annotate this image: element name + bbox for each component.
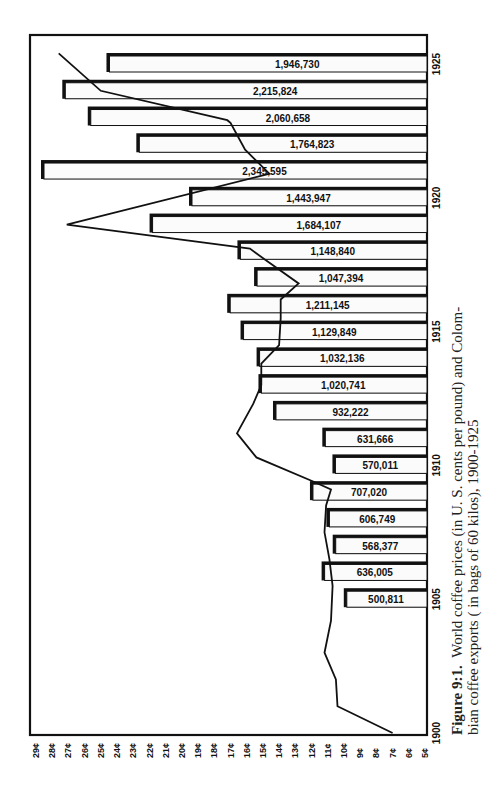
export-bar: 1,684,107 — [150, 214, 427, 233]
export-bar: 932,222 — [273, 401, 427, 420]
bar-value-label: 1,032,136 — [320, 353, 365, 364]
price-tick-label: 15¢ — [258, 743, 268, 758]
year-tick-label: 1900 — [431, 721, 442, 744]
caption-line-1: Figure 9:1. World coffee prices (in U. S… — [449, 307, 466, 735]
bar-value-label: 500,811 — [368, 594, 404, 605]
caption-figure-label: Figure 9:1. — [449, 665, 465, 735]
export-bar: 1,032,136 — [257, 347, 427, 366]
year-tick-label: 1910 — [431, 454, 442, 477]
bar-value-label: 1,443,947 — [286, 193, 331, 204]
bar-body — [44, 163, 427, 179]
figure-caption: Figure 9:1. World coffee prices (in U. S… — [449, 307, 482, 735]
caption-text-1: World coffee prices (in U. S. cents per … — [449, 307, 466, 658]
bar-value-label: 1,129,849 — [312, 327, 357, 338]
bar-value-label: 1,047,394 — [319, 273, 364, 284]
export-bar: 1,443,947 — [189, 187, 427, 206]
price-axis: 29¢28¢27¢26¢25¢24¢23¢22¢21¢20¢19¢18¢17¢1… — [31, 743, 430, 758]
export-bar: 2,060,658 — [88, 107, 427, 126]
export-bar: 500,811 — [344, 588, 427, 607]
price-tick-label: 20¢ — [177, 743, 187, 758]
bar-value-label: 1,684,107 — [297, 220, 342, 231]
price-tick-label: 14¢ — [274, 743, 284, 758]
export-bar: 631,666 — [322, 428, 427, 447]
export-bar: 1,211,145 — [227, 294, 427, 313]
price-tick-label: 19¢ — [193, 743, 203, 758]
export-bar: 636,005 — [322, 561, 427, 580]
price-tick-label: 8¢ — [371, 748, 381, 758]
export-bar: 707,020 — [310, 481, 427, 500]
bar-value-label: 631,666 — [357, 434, 394, 445]
price-tick-label: 22¢ — [145, 743, 155, 758]
price-tick-label: 21¢ — [161, 743, 171, 758]
price-tick-label: 10¢ — [339, 743, 349, 758]
price-tick-label: 26¢ — [80, 743, 90, 758]
export-bar: 2,215,824 — [62, 80, 427, 99]
bar-value-label: 1,148,840 — [310, 246, 355, 257]
bar-value-label: 606,749 — [359, 514, 396, 525]
export-bar: 1,129,849 — [241, 321, 427, 340]
price-tick-label: 16¢ — [242, 743, 252, 758]
bar-value-label: 932,222 — [332, 407, 369, 418]
price-tick-label: 18¢ — [209, 743, 219, 758]
price-tick-label: 13¢ — [290, 743, 300, 758]
year-tick-label: 1920 — [431, 186, 442, 209]
bar-value-label: 2,060,658 — [266, 113, 311, 124]
bar-body — [153, 217, 427, 233]
bar-value-label: 1,764,823 — [290, 139, 335, 150]
bar-value-label: 2,215,824 — [253, 86, 298, 97]
price-tick-label: 9¢ — [355, 748, 365, 758]
price-tick-label: 6¢ — [404, 748, 414, 758]
bar-value-label: 707,020 — [351, 487, 388, 498]
export-bar: 570,011 — [332, 454, 427, 473]
price-tick-label: 11¢ — [323, 743, 333, 758]
price-tick-label: 23¢ — [128, 743, 138, 758]
export-bar: 1,148,840 — [237, 240, 427, 259]
export-bar: 1,946,730 — [106, 53, 427, 72]
price-tick-label: 28¢ — [47, 743, 57, 758]
export-bar: 568,377 — [333, 535, 427, 554]
price-tick-label: 7¢ — [388, 748, 398, 758]
bar-value-label: 1,946,730 — [275, 59, 320, 70]
bar-value-label: 636,005 — [357, 567, 394, 578]
price-tick-label: 17¢ — [226, 743, 236, 758]
export-bar: 606,749 — [326, 508, 427, 527]
export-bar: 1,020,741 — [258, 374, 427, 393]
bar-value-label: 568,377 — [362, 541, 399, 552]
price-tick-label: 24¢ — [112, 743, 122, 758]
chart: 500,811636,005568,377606,749707,020570,0… — [0, 0, 497, 802]
price-tick-label: 5¢ — [420, 748, 430, 758]
bar-body — [91, 110, 427, 126]
bar-value-label: 570,011 — [362, 460, 398, 471]
year-tick-label: 1915 — [431, 320, 442, 343]
export-bar: 2,345,595 — [41, 160, 427, 179]
bar-value-label: 1,211,145 — [306, 300, 350, 311]
price-tick-label: 25¢ — [96, 743, 106, 758]
bar-body — [65, 83, 427, 99]
caption-line-2: bian coffee exports ( in bags of 60 kilo… — [465, 420, 482, 736]
bar-value-label: 1,020,741 — [321, 380, 366, 391]
year-tick-label: 1905 — [431, 588, 442, 611]
year-axis: 190019051910191519201925 — [431, 52, 442, 744]
price-tick-label: 27¢ — [63, 743, 73, 758]
year-tick-label: 1925 — [431, 52, 442, 75]
price-tick-label: 29¢ — [31, 743, 41, 758]
export-bar: 1,764,823 — [136, 133, 427, 152]
price-tick-label: 12¢ — [307, 743, 317, 758]
bar-body — [109, 56, 427, 72]
bar-body — [139, 136, 427, 152]
export-bars: 500,811636,005568,377606,749707,020570,0… — [41, 53, 427, 607]
